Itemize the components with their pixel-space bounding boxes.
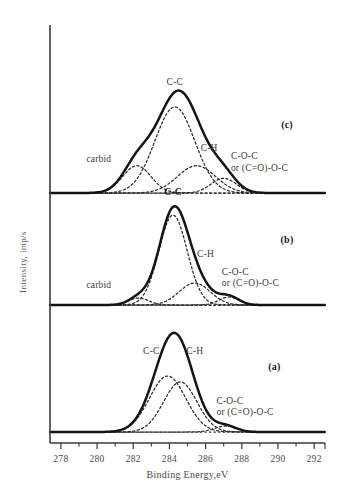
peak-label-c-o-c: C-O-C (216, 396, 243, 406)
x-tick-label: 278 (53, 454, 68, 464)
peak-label-or-c-o-o-c: or (C=O)-O-C (222, 278, 279, 289)
xps-spectra-figure: C-CC-HcarbidC-O-Cor (C=O)-O-C(c)C-CC-Hca… (0, 0, 337, 497)
x-tick-label: 280 (89, 454, 104, 464)
peak-label-c-c: C-C (164, 187, 182, 197)
peak-label-carbid: carbid (86, 154, 111, 164)
panel-letter-a: (a) (268, 361, 280, 373)
peak-label-c-o-c: C-O-C (222, 267, 249, 277)
peak-label-c-h: C-H (186, 346, 203, 356)
x-tick-label: 282 (126, 454, 141, 464)
panel-letter-c: (c) (281, 119, 293, 131)
x-axis-title: Binding Energy,eV (146, 469, 229, 480)
peak-label-carbid: carbid (86, 280, 111, 290)
peak-label-c-h: C-H (201, 143, 218, 153)
component-c-h (50, 382, 325, 432)
x-tick-label: 288 (234, 454, 249, 464)
peak-label-c-o-c: C-O-C (231, 151, 258, 161)
component-c-c (50, 376, 325, 432)
x-tick-label: 284 (162, 454, 177, 464)
peak-label-c-c: C-C (143, 346, 159, 356)
peak-label-c-c: C-C (167, 77, 183, 87)
panel-b: C-CC-HcarbidC-O-Cor (C=O)-O-C(b) (50, 187, 325, 305)
component-c-o-c (50, 178, 325, 193)
panel-a: C-CC-HC-O-Cor (C=O)-O-C(a) (50, 333, 325, 432)
peak-label-or-c-o-o-c: or (C=O)-O-C (231, 163, 288, 174)
axes: 278280282284286288290292Binding Energy,e… (18, 25, 325, 480)
panel-c-envelope (50, 91, 325, 193)
spectra-plot: C-CC-HcarbidC-O-Cor (C=O)-O-C(c)C-CC-Hca… (0, 0, 337, 497)
x-tick-label: 292 (307, 454, 322, 464)
panel-letter-b: (b) (281, 234, 294, 246)
panel-b-envelope (50, 206, 325, 305)
peak-label-or-c-o-o-c: or (C=O)-O-C (216, 407, 273, 418)
peak-label-c-h: C-H (197, 249, 214, 259)
x-tick-label: 290 (270, 454, 285, 464)
panel-c: C-CC-HcarbidC-O-Cor (C=O)-O-C(c) (50, 77, 325, 193)
x-tick-label: 286 (198, 454, 213, 464)
y-axis-title: Intensity, imp/s (18, 231, 28, 293)
